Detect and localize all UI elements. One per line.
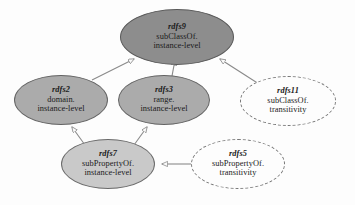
node-rdfs2-id: rdfs2 [52,86,70,95]
node-rdfs7-line2: subPropertyOf. [82,159,134,168]
node-rdfs5-line3: transitivity [220,168,257,177]
node-rdfs2-line2: domain. [47,95,75,104]
node-rdfs9-id: rdfs9 [168,23,186,32]
node-rdfs2[interactable]: rdfs2 domain. instance-level [14,75,108,125]
node-rdfs7[interactable]: rdfs7 subPropertyOf. instance-level [61,139,155,189]
node-rdfs5-line2: subPropertyOf. [212,159,264,168]
node-rdfs2-line3: instance-level [37,104,84,113]
node-rdfs5[interactable]: rdfs5 subPropertyOf. transitivity [191,139,285,189]
node-rdfs11-line3: transitivity [270,105,307,114]
node-rdfs3-line2: range. [154,95,175,104]
node-rdfs7-line3: instance-level [84,168,131,177]
diagram-canvas: rdfs9 subClassOf. instance-level rdfs2 d… [0,0,355,205]
node-rdfs11-id: rdfs11 [277,87,299,96]
node-rdfs9-line3: instance-level [153,41,200,50]
node-rdfs3-id: rdfs3 [155,86,173,95]
edge-rdfs7-to-rdfs3 [134,127,147,145]
node-rdfs11-line2: subClassOf. [267,96,308,105]
node-rdfs3[interactable]: rdfs3 range. instance-level [118,75,210,125]
node-rdfs9[interactable]: rdfs9 subClassOf. instance-level [120,9,234,65]
node-rdfs11[interactable]: rdfs11 subClassOf. transitivity [240,76,336,126]
node-rdfs3-line3: instance-level [140,104,187,113]
edge-rdfs11-to-rdfs9 [220,59,259,84]
node-rdfs9-line2: subClassOf. [156,32,197,41]
node-rdfs7-id: rdfs7 [99,150,117,159]
node-rdfs5-id: rdfs5 [229,150,247,159]
edge-rdfs2-to-rdfs9 [92,59,134,80]
